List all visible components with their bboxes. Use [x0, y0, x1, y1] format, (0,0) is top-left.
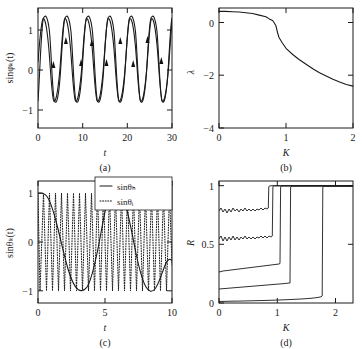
- panel-a-svg: 0 10 20 30 1 0 −1 t sinφₖ(t) (a): [0, 0, 181, 175]
- panel-b-curves: [219, 11, 353, 86]
- xtick-label: 1: [284, 132, 289, 143]
- panel-d-curves: [219, 186, 353, 302]
- panel-a-caption: (a): [99, 162, 110, 174]
- ytick-label: 0.5: [202, 239, 215, 250]
- panel-a-axes: [38, 8, 172, 128]
- marker-triangle: [118, 37, 122, 44]
- panel-a: 0 10 20 30 1 0 −1 t sinφₖ(t) (a): [0, 0, 181, 175]
- curve-branch-1: [219, 186, 353, 213]
- figure-container: 0 10 20 30 1 0 −1 t sinφₖ(t) (a): [0, 0, 362, 349]
- panel-c-ylabel: sinθₖ(t): [4, 228, 16, 258]
- panel-a-ticklabels: 0 10 20 30 1 0 −1: [22, 25, 177, 143]
- curve-branch-3: [219, 186, 353, 272]
- xtick-label: 0: [36, 307, 41, 318]
- curve-branch-2: [219, 186, 353, 241]
- panel-b-svg: 0 1 2 0 −2 −4 K λ (b): [181, 0, 362, 175]
- panel-d-svg: 0 1 2 0 0.5 1 K R (d): [181, 175, 362, 349]
- panel-c-xlabel: t: [104, 322, 107, 333]
- panel-d-caption: (d): [280, 337, 292, 349]
- ytick-label: 0: [209, 18, 214, 29]
- xtick-label: 0: [217, 132, 222, 143]
- panel-d: 0 1 2 0 0.5 1 K R (d): [181, 175, 362, 349]
- xtick-label: 2: [351, 132, 356, 143]
- panel-c-svg: sinθₕ sinθᵢ 0 5 10 1 0 −1 t sinθₖ(t) (c): [0, 175, 181, 349]
- xtick-label: 30: [167, 132, 177, 143]
- panel-b: 0 1 2 0 −2 −4 K λ (b): [181, 0, 362, 175]
- xtick-label: 2: [333, 307, 338, 318]
- panel-a-ylabel: sinφₖ(t): [4, 53, 16, 84]
- panel-d-axes: [219, 181, 353, 303]
- ytick-label: −1: [22, 286, 33, 297]
- ytick-label: 0: [28, 65, 33, 76]
- ytick-label: −1: [22, 105, 33, 116]
- ytick-label: −4: [203, 123, 214, 134]
- marker-triangle: [131, 60, 135, 67]
- panel-b-caption: (b): [280, 162, 292, 174]
- panel-b-xlabel: K: [282, 147, 291, 158]
- xtick-label: 0: [36, 132, 41, 143]
- panel-c: sinθₕ sinθᵢ 0 5 10 1 0 −1 t sinθₖ(t) (c): [0, 175, 181, 349]
- ytick-label: 0: [28, 237, 33, 248]
- marker-triangle: [64, 37, 68, 44]
- panel-c-caption: (c): [99, 337, 110, 349]
- curve-branch-4: [219, 186, 353, 289]
- xtick-label: 10: [78, 132, 88, 143]
- panel-b-axes: [219, 8, 353, 128]
- ytick-label: 1: [28, 188, 33, 199]
- panel-a-xlabel: t: [104, 147, 107, 158]
- ytick-label: 1: [28, 25, 33, 36]
- panel-a-curves: [38, 16, 172, 102]
- ytick-label: 1: [209, 181, 214, 192]
- xtick-label: 20: [122, 132, 132, 143]
- xtick-label: 1: [275, 307, 280, 318]
- curve-branch-5: [219, 186, 353, 301]
- marker-triangle: [159, 57, 163, 64]
- legend-label-sin-theta-i: sinθᵢ: [117, 197, 134, 207]
- xtick-label: 10: [167, 307, 177, 318]
- legend-label-sin-theta-h: sinθₕ: [117, 182, 136, 192]
- panel-b-ticklabels: 0 1 2 0 −2 −4: [203, 18, 355, 144]
- panel-d-xlabel: K: [282, 322, 291, 333]
- curve-lyapunov: [219, 11, 353, 86]
- curve-oscillator-2: [38, 19, 172, 101]
- panel-c-legend: sinθₕ sinθᵢ: [95, 177, 172, 210]
- ytick-label: 0: [209, 298, 214, 309]
- marker-triangle: [105, 59, 109, 66]
- panel-d-ylabel: R: [185, 240, 196, 247]
- ytick-label: −2: [203, 70, 214, 81]
- xtick-label: 0: [217, 307, 222, 318]
- panel-b-ylabel: λ: [185, 69, 196, 75]
- xtick-label: 5: [103, 307, 108, 318]
